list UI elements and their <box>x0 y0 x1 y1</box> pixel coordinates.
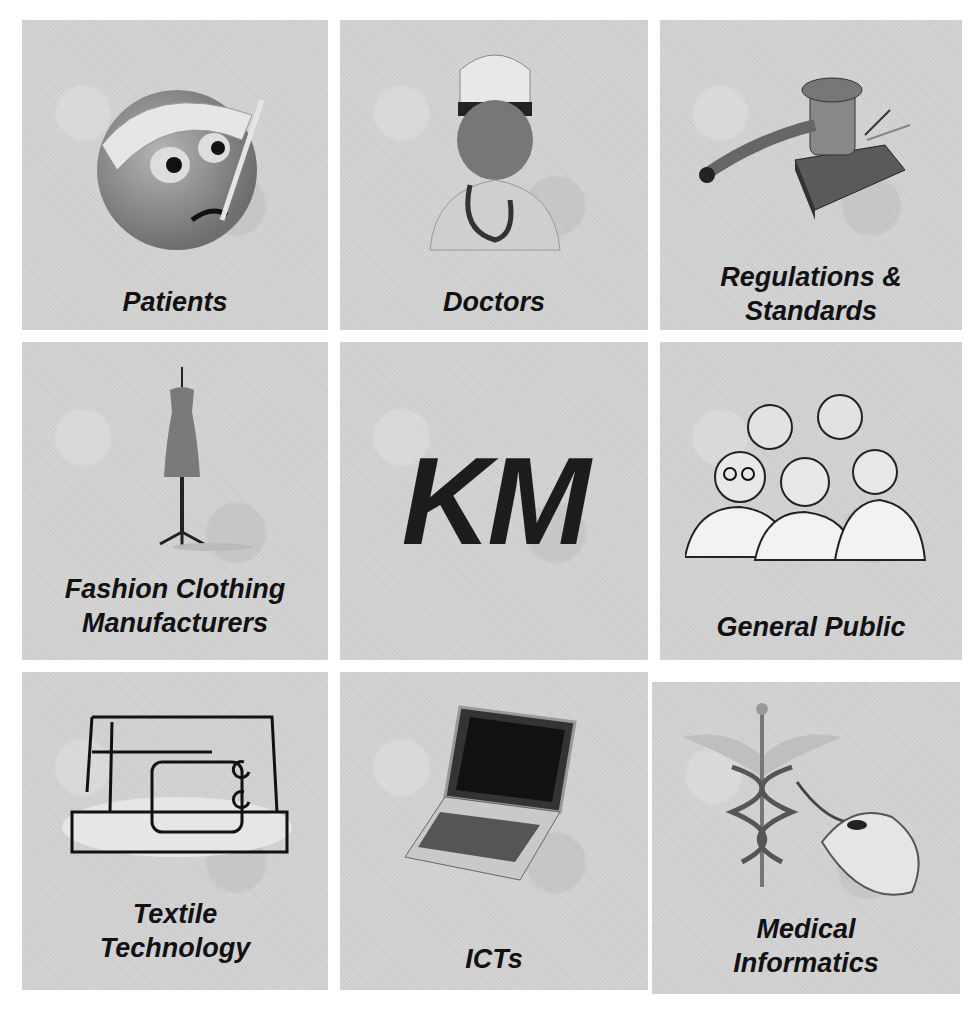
tile-doctors: Doctors <box>340 20 648 330</box>
tile-label: Patients <box>22 285 328 319</box>
laptop-icon <box>400 702 580 882</box>
gavel-icon <box>695 70 915 220</box>
tile-general-public: General Public <box>660 342 962 660</box>
caduceus-mouse-icon <box>672 697 932 897</box>
sewing-machine-icon <box>62 702 292 862</box>
tile-fashion-clothing-manufacturers: Fashion Clothing Manufacturers <box>22 342 328 660</box>
doctor-stethoscope-icon <box>420 40 570 260</box>
sick-face-thermometer-icon <box>92 70 272 260</box>
tile-label: Medical Informatics <box>652 912 960 980</box>
dress-mannequin-icon <box>132 362 252 552</box>
tile-textile-technology: Textile Technology <box>22 672 328 990</box>
tile-label: Regulations & Standards <box>660 260 962 328</box>
tile-label: Fashion Clothing Manufacturers <box>22 572 328 640</box>
tile-label: General Public <box>660 610 962 644</box>
people-group-icon <box>685 382 935 562</box>
tile-patients: Patients <box>22 20 328 330</box>
km-title: KM <box>340 430 648 572</box>
tile-label: Textile Technology <box>22 897 328 965</box>
tile-icts: ICTs <box>340 672 648 990</box>
tile-regulations-standards: Regulations & Standards <box>660 20 962 330</box>
tile-label: Doctors <box>340 285 648 319</box>
tile-label: ICTs <box>340 942 648 976</box>
tile-medical-informatics: Medical Informatics <box>652 682 960 994</box>
tile-km-center: KM <box>340 342 648 660</box>
